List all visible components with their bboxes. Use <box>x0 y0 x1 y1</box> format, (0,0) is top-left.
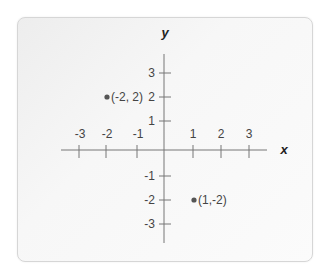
y-tick-label: -2 <box>144 193 155 207</box>
y-tick-label: -3 <box>144 217 155 231</box>
y-axis-label: y <box>160 25 169 40</box>
y-ticks <box>159 73 171 224</box>
point-label: (-2, 2) <box>111 90 143 104</box>
x-tick-label: 1 <box>190 127 197 141</box>
point-label: (1,-2) <box>198 193 227 207</box>
x-tick-label: -1 <box>133 127 144 141</box>
point-neg2-2: (-2, 2) <box>104 90 143 104</box>
point-marker-icon <box>191 197 196 202</box>
y-tick-label: 3 <box>148 66 155 80</box>
x-tick-label: 2 <box>218 127 225 141</box>
x-tick-label: -3 <box>75 127 86 141</box>
y-tick-label: 1 <box>148 114 155 128</box>
y-tick-label: -1 <box>144 169 155 183</box>
x-axis-label: x <box>279 142 288 157</box>
coordinate-plane: y x -3 -2 -1 1 2 3 3 2 1 -1 -2 -3 (-2, 2… <box>0 0 329 272</box>
x-tick-label: -2 <box>102 127 113 141</box>
x-tick-label: 3 <box>246 127 253 141</box>
point-1-neg2: (1,-2) <box>191 193 226 207</box>
point-marker-icon <box>104 94 109 99</box>
y-tick-label: 2 <box>148 90 155 104</box>
y-tick-labels: 3 2 1 -1 -2 -3 <box>144 66 155 231</box>
